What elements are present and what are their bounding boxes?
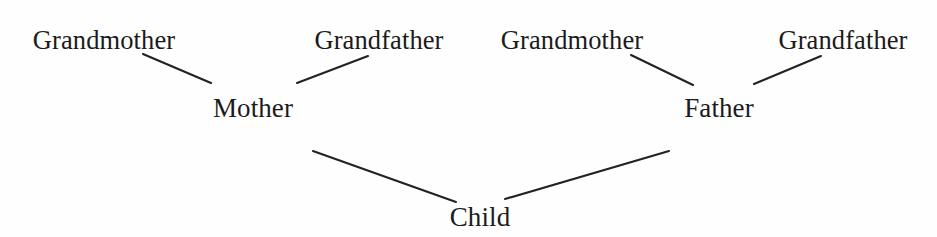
edge-grandmother-paternal-father (631, 55, 693, 85)
node-grandfather-maternal: Grandfather (314, 27, 443, 54)
edge-grandfather-paternal-father (754, 56, 821, 84)
node-child: Child (450, 204, 511, 231)
node-mother: Mother (213, 95, 293, 122)
edge-grandmother-maternal-mother (143, 54, 211, 83)
node-grandmother-paternal: Grandmother (501, 27, 643, 54)
edge-grandfather-maternal-mother (297, 56, 368, 83)
edge-father-child (505, 151, 669, 199)
family-tree-diagram: Grandmother Grandfather Grandmother Gran… (0, 0, 937, 237)
node-grandfather-paternal: Grandfather (778, 27, 907, 54)
node-father: Father (684, 95, 754, 122)
node-grandmother-maternal: Grandmother (33, 27, 175, 54)
edge-mother-child (313, 151, 456, 202)
